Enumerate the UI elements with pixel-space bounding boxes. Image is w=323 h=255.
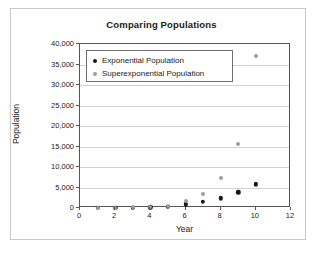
chart-container: Comparing Populations Population 05,0001…	[0, 0, 323, 255]
x-tick-label: 8	[218, 211, 222, 220]
x-tick-mark	[220, 207, 221, 210]
data-point	[166, 204, 170, 208]
gridline	[80, 167, 289, 168]
legend-label-exponential: Exponential Population	[102, 56, 184, 65]
y-tick-label: 0	[0, 203, 74, 212]
y-tick-mark	[76, 187, 79, 188]
data-point	[201, 192, 205, 196]
chart-title: Comparing Populations	[0, 19, 323, 30]
gridline	[80, 126, 289, 127]
y-tick-label: 20,000	[0, 121, 74, 130]
data-point	[184, 199, 188, 203]
data-point	[254, 54, 258, 58]
x-axis-title: Year	[79, 224, 290, 234]
x-tick-label: 2	[112, 211, 116, 220]
y-tick-mark	[76, 84, 79, 85]
data-point	[218, 196, 222, 200]
y-tick-mark	[76, 64, 79, 65]
x-tick-label: 12	[286, 211, 294, 220]
y-tick-label: 25,000	[0, 100, 74, 109]
legend-label-superexponential: Superexponential Population	[102, 69, 204, 78]
data-point	[254, 182, 258, 186]
x-tick-mark	[79, 207, 80, 210]
y-tick-label: 40,000	[0, 39, 74, 48]
data-point	[236, 190, 240, 194]
legend-marker-exponential	[93, 59, 97, 63]
gridline	[80, 188, 289, 189]
x-tick-mark	[255, 207, 256, 210]
y-tick-label: 15,000	[0, 141, 74, 150]
x-tick-mark	[114, 207, 115, 210]
y-tick-mark	[76, 166, 79, 167]
y-tick-label: 10,000	[0, 162, 74, 171]
y-tick-label: 35,000	[0, 59, 74, 68]
gridline	[80, 106, 289, 107]
x-tick-label: 4	[147, 211, 151, 220]
gridline	[80, 147, 289, 148]
x-tick-label: 6	[182, 211, 186, 220]
legend-entry-exponential: Exponential Population	[93, 54, 184, 67]
data-point	[201, 200, 205, 204]
y-tick-label: 30,000	[0, 80, 74, 89]
data-point	[236, 142, 240, 146]
x-tick-mark	[185, 207, 186, 210]
legend-entry-superexponential: Superexponential Population	[93, 67, 204, 80]
y-tick-mark	[76, 105, 79, 106]
x-tick-label: 10	[251, 211, 259, 220]
y-tick-mark	[76, 125, 79, 126]
y-tick-mark	[76, 43, 79, 44]
y-tick-label: 5,000	[0, 182, 74, 191]
data-point	[219, 176, 223, 180]
x-tick-mark	[290, 207, 291, 210]
data-point	[131, 205, 135, 209]
chart-legend: Exponential Population Superexponential …	[86, 50, 233, 82]
y-tick-mark	[76, 146, 79, 147]
legend-marker-superexponential	[93, 72, 97, 76]
data-point	[96, 206, 100, 210]
x-tick-label: 0	[77, 211, 81, 220]
x-tick-mark	[149, 207, 150, 210]
gridline	[80, 85, 289, 86]
